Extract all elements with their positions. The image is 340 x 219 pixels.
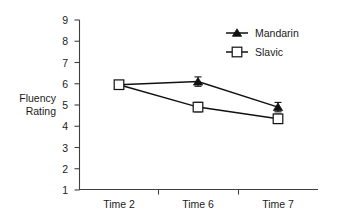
legend-entry-mandarin: Mandarin bbox=[226, 27, 299, 39]
legend-label-slavic: Slavic bbox=[255, 46, 283, 58]
y-tick-label-9: 9 bbox=[62, 14, 68, 26]
y-axis-ticks bbox=[75, 20, 80, 190]
chart-canvas: 9 8 7 6 5 4 3 2 1 Fluency Rating Time 2 … bbox=[0, 0, 340, 219]
chart-legend: Mandarin Slavic bbox=[226, 27, 299, 58]
fluency-rating-line-chart: 9 8 7 6 5 4 3 2 1 Fluency Rating Time 2 … bbox=[0, 0, 340, 219]
y-tick-label-4: 4 bbox=[62, 120, 68, 132]
x-tick-label-time-2: Time 2 bbox=[103, 198, 135, 210]
slavic-marker-time-7 bbox=[273, 114, 283, 124]
y-axis-title-line1: Fluency bbox=[19, 92, 57, 104]
y-tick-label-3: 3 bbox=[62, 142, 68, 154]
y-tick-label-8: 8 bbox=[62, 35, 68, 47]
slavic-marker-time-6 bbox=[193, 102, 203, 112]
legend-label-mandarin: Mandarin bbox=[255, 27, 299, 39]
y-tick-label-5: 5 bbox=[62, 99, 68, 111]
legend-entry-slavic: Slavic bbox=[226, 46, 283, 58]
y-tick-label-7: 7 bbox=[62, 57, 68, 69]
y-tick-label-2: 2 bbox=[62, 163, 68, 175]
legend-open-square-icon bbox=[232, 47, 242, 57]
x-tick-label-time-6: Time 6 bbox=[182, 198, 214, 210]
slavic-marker-time-2 bbox=[114, 80, 124, 90]
y-tick-label-6: 6 bbox=[62, 78, 68, 90]
y-tick-label-1: 1 bbox=[62, 184, 68, 196]
x-axis-ticks bbox=[159, 190, 239, 195]
y-axis-title-line2: Rating bbox=[26, 105, 57, 117]
x-tick-label-time-7: Time 7 bbox=[262, 198, 294, 210]
